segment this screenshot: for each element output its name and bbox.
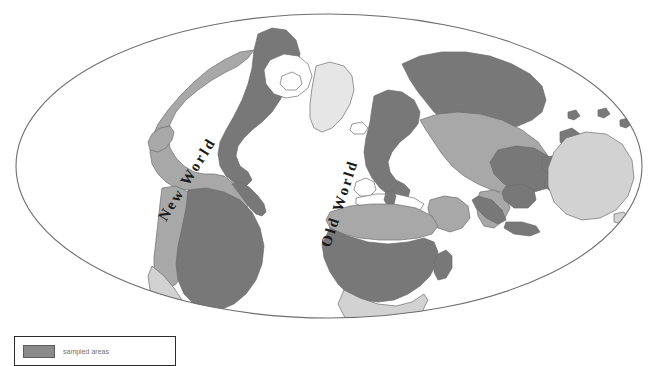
legend-swatch [23,345,55,358]
legend-label: sampled areas [63,348,109,355]
map-legend: sampled areas [14,336,176,366]
region-new-zealand [646,172,658,188]
